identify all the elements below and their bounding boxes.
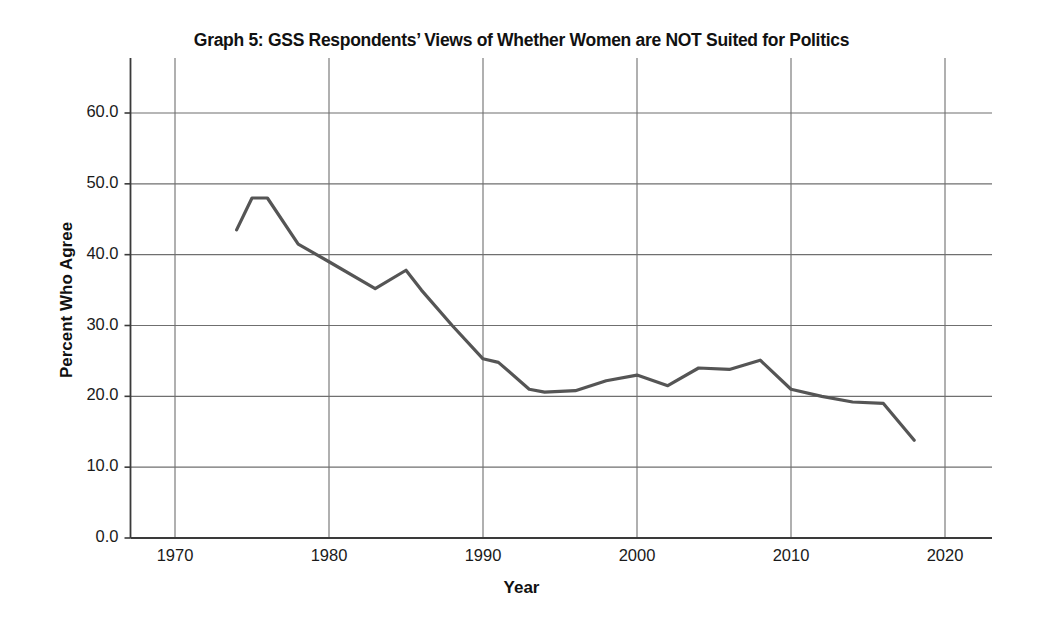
x-tick-label: 1990 [443, 546, 523, 565]
y-tick-label: 50.0 [49, 173, 119, 192]
y-tick-label: 10.0 [49, 456, 119, 475]
chart-figure: Graph 5: GSS Respondents’ Views of Wheth… [0, 0, 1043, 624]
x-tick-label: 1980 [289, 546, 369, 565]
y-tick-label: 60.0 [49, 102, 119, 121]
y-tick-label: 0.0 [49, 527, 119, 546]
plot-area [0, 0, 1043, 624]
x-axis-label: Year [0, 578, 1043, 598]
x-tick-label: 2010 [751, 546, 831, 565]
data-line-series [237, 198, 915, 440]
vertical-gridlines [175, 58, 945, 538]
x-tick-label: 2000 [597, 546, 677, 565]
y-axis-label: Percent Who Agree [57, 200, 77, 400]
horizontal-gridlines [131, 113, 993, 467]
axis-lines [131, 58, 993, 538]
x-tick-label: 1970 [135, 546, 215, 565]
x-tick-label: 2020 [905, 546, 985, 565]
